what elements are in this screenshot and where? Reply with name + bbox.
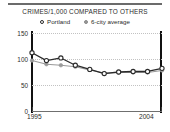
chart-legend: Portland 6-city average <box>0 18 170 25</box>
top-divider-rule <box>8 3 162 5</box>
legend-label-six-city-average: 6-city average <box>91 18 130 25</box>
data-point <box>131 69 135 73</box>
legend-entry-portland: Portland <box>40 18 70 25</box>
chart-title: CRIMES/1,000 COMPARED TO OTHERS <box>0 8 170 15</box>
y-tick-label-100: 100 <box>17 55 28 62</box>
x-tick-label-end: 2004 <box>139 113 154 120</box>
data-point <box>88 67 92 71</box>
data-point <box>145 69 149 73</box>
series-plot <box>32 33 162 111</box>
data-point <box>30 59 34 63</box>
data-point <box>59 56 63 60</box>
filled-circle-marker-icon <box>84 20 88 24</box>
y-tick-label-50: 50 <box>21 81 28 88</box>
data-point <box>160 66 164 70</box>
chart-figure: CRIMES/1,000 COMPARED TO OTHERS Portland… <box>0 0 170 132</box>
y-tick-label-150: 150 <box>17 30 28 37</box>
legend-label-portland: Portland <box>47 18 70 25</box>
data-point <box>73 63 77 67</box>
y-axis-tick-labels: 150 100 50 0 <box>4 33 28 111</box>
data-point <box>102 71 106 75</box>
data-point <box>59 63 63 67</box>
legend-entry-six-city-average: 6-city average <box>84 18 130 25</box>
plot-area <box>32 33 162 111</box>
x-tick-label-start: 1995 <box>27 113 42 120</box>
data-point <box>117 70 121 74</box>
open-circle-marker-icon <box>40 20 44 24</box>
data-point <box>30 51 34 55</box>
series-line-portland <box>32 53 162 74</box>
data-point <box>44 58 48 62</box>
